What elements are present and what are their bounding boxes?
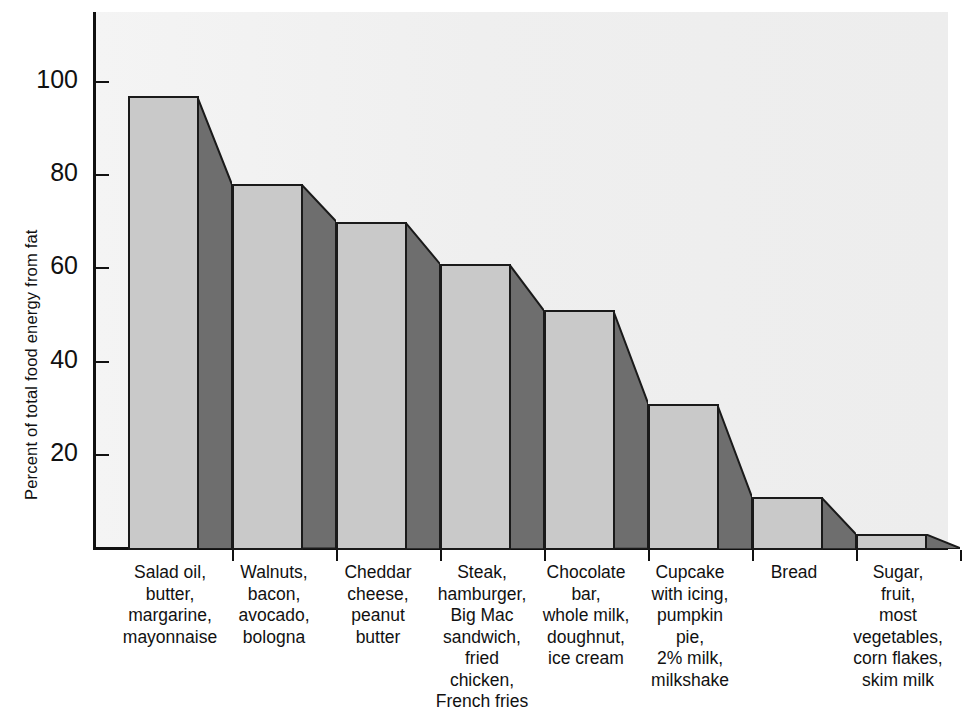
x-tick-0 [232,550,234,561]
bar-front-face [440,264,511,550]
x-category-label: Bread [734,562,854,584]
y-tick-100 [95,81,109,83]
x-tick-2 [440,550,442,561]
x-tick-1 [336,550,338,561]
x-category-label: Sugar, fruit, most vegetables, corn flak… [838,562,958,691]
x-tick-3 [544,550,546,561]
y-tick-20 [95,454,109,456]
bar-front-face [544,310,615,550]
y-tick-60 [95,267,109,269]
bar-side-face [509,264,544,549]
y-tick-label-60: 60 [0,251,78,280]
bar-front-face [856,534,927,550]
bar-front-face [128,96,199,550]
bar-front-face [336,222,407,550]
x-tick-5 [752,550,754,561]
y-axis-line [93,12,96,550]
y-tick-label-20: 20 [0,438,78,467]
x-category-label: Salad oil, butter, margarine, mayonnaise [110,562,230,648]
x-tick-6 [856,550,858,561]
bar-front-face [752,497,823,550]
y-tick-40 [95,361,109,363]
bar-side-face [197,96,232,549]
bar-side-face [613,310,648,549]
x-category-label: Cupcake with icing, pumpkin pie, 2% milk… [630,562,750,691]
bar-side-face [821,497,856,549]
bar-side-face [405,222,440,549]
y-tick-80 [95,174,109,176]
y-tick-label-40: 40 [0,345,78,374]
bar-side-face [717,404,752,549]
bar-front-face [232,184,303,550]
bar-side-face [925,534,960,549]
x-tick-4 [648,550,650,561]
x-category-label: Walnuts, bacon, avocado, bologna [214,562,334,648]
y-tick-label-80: 80 [0,158,78,187]
x-category-label: Chocolate bar, whole milk, doughnut, ice… [526,562,646,670]
x-category-label: Steak, hamburger, Big Mac sandwich, frie… [422,562,542,713]
x-category-label: Cheddar cheese, peanut butter [318,562,438,648]
bar-front-face [648,404,719,550]
bar-side-face [301,184,336,549]
y-tick-label-100: 100 [0,65,78,94]
